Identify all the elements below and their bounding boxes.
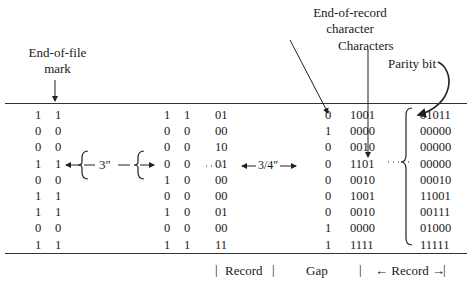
- bit-cell-rec2-a: 1001: [350, 188, 375, 204]
- bit-cell-eor: 0: [325, 107, 331, 123]
- bit-cell-rec1-b: 1: [184, 107, 190, 123]
- bit-cell-rec1-c: 01: [215, 204, 228, 220]
- bit-cell-eor: 0: [325, 204, 331, 220]
- bit-cell-rec1-c: 00: [215, 220, 228, 236]
- bit-cell-rec2-b: 11001: [420, 188, 451, 204]
- bit-cell-eor: 0: [325, 188, 331, 204]
- bit-cell-rec1-a: 0: [164, 156, 170, 172]
- bit-cell-rec1-c: 00: [215, 172, 228, 188]
- bit-cell-rec1-a: 1: [164, 172, 170, 188]
- bit-cell-rec2-a: 1001: [350, 107, 375, 123]
- bit-cell-rec1-a: 1: [164, 107, 170, 123]
- bit-cell-eof-b: 0: [55, 123, 61, 139]
- bit-cell-rec1-c: 00: [215, 123, 228, 139]
- bit-cell-eor: 0: [325, 139, 331, 155]
- bit-cell-rec1-c: 11: [215, 237, 227, 253]
- bit-cell-rec1-a: 0: [164, 139, 170, 155]
- characters-brace-icon: [401, 108, 412, 245]
- bit-cell-rec1-b: 0: [184, 188, 190, 204]
- bit-cell-eor: 1: [325, 237, 331, 253]
- bit-cell-rec2-a: 0010: [350, 204, 375, 220]
- bit-cell-rec1-c: 01: [215, 156, 228, 172]
- footer-divider-2: |: [272, 262, 275, 278]
- footer-record-2: ← Record →: [375, 263, 445, 279]
- bit-cell-rec2-a: 1111: [350, 237, 374, 253]
- bit-cell-eof-b: 1: [55, 237, 61, 253]
- bit-cell-rec2-b: 00000: [420, 156, 451, 172]
- bit-cell-eof-b: 0: [55, 139, 61, 155]
- bit-cell-eof-a: 1: [35, 204, 41, 220]
- footer-divider-4: |: [443, 262, 446, 278]
- bit-cell-rec2-a: 0010: [350, 172, 375, 188]
- bit-cell-rec2-a: 0010: [350, 139, 375, 155]
- bit-cell-rec1-c: 00: [215, 188, 228, 204]
- bit-cell-eof-b: 1: [55, 204, 61, 220]
- bit-cell-eof-b: 0: [55, 220, 61, 236]
- bit-cell-eof-a: 0: [35, 220, 41, 236]
- footer-record-1: Record: [225, 263, 263, 279]
- bit-cell-rec1-a: 0: [164, 188, 170, 204]
- bit-cell-eof-b: 1: [55, 156, 61, 172]
- short-gap-label: 3/4″: [258, 158, 278, 173]
- bit-cell-eor: 1: [325, 220, 331, 236]
- bit-cell-eof-a: 1: [35, 107, 41, 123]
- bit-cell-rec1-b: 0: [184, 156, 190, 172]
- bit-cell-rec2-b: 00010: [420, 172, 451, 188]
- bit-cell-eof-a: 0: [35, 172, 41, 188]
- bit-cell-rec2-b: 00000: [420, 139, 451, 155]
- bit-cell-rec1-b: 0: [184, 123, 190, 139]
- footer-gap: Gap: [306, 263, 328, 279]
- bit-cell-rec2-a: 1101: [350, 156, 375, 172]
- bit-cell-rec1-b: 0: [184, 172, 190, 188]
- bit-cell-eof-a: 0: [35, 139, 41, 155]
- footer-divider-1: |: [215, 262, 218, 278]
- bit-cell-eof-b: 1: [55, 188, 61, 204]
- footer-divider-3: |: [359, 262, 362, 278]
- bit-cell-rec1-a: 1: [164, 204, 170, 220]
- bit-cell-rec2-b: 01011: [420, 107, 451, 123]
- bit-cell-rec1-b: 1: [184, 237, 190, 253]
- bit-cell-rec2-b: 11111: [420, 237, 449, 253]
- diagram-arrows: [0, 0, 475, 285]
- bit-cell-eor: 1: [325, 123, 331, 139]
- bit-cell-rec1-a: 0: [164, 220, 170, 236]
- bit-cell-rec1-b: 0: [184, 204, 190, 220]
- bit-cell-eof-a: 0: [35, 123, 41, 139]
- bit-cell-rec1-a: 0: [164, 123, 170, 139]
- bit-cell-rec1-c: 10: [215, 139, 228, 155]
- bit-cell-eof-b: 1: [55, 107, 61, 123]
- bit-cell-eof-a: 1: [35, 188, 41, 204]
- bit-cell-eor: 0: [325, 172, 331, 188]
- bit-cell-rec1-c: 01: [215, 107, 228, 123]
- bit-cell-rec2-a: 0000: [350, 220, 375, 236]
- bit-cell-rec2-b: 01000: [420, 220, 451, 236]
- bit-cell-eor: 0: [325, 156, 331, 172]
- long-gap-label: 3″: [99, 157, 111, 173]
- bit-cell-eof-b: 0: [55, 172, 61, 188]
- bit-cell-rec1-a: 1: [164, 237, 170, 253]
- bit-cell-eof-a: 1: [35, 237, 41, 253]
- eor-arrow-icon: [290, 40, 328, 113]
- bit-cell-eof-a: 1: [35, 156, 41, 172]
- bit-cell-rec2-b: 00111: [420, 204, 450, 220]
- bit-cell-rec2-a: 0000: [350, 123, 375, 139]
- bit-cell-rec1-b: 0: [184, 220, 190, 236]
- bit-cell-rec2-b: 00000: [420, 123, 451, 139]
- bit-cell-rec1-b: 0: [184, 139, 190, 155]
